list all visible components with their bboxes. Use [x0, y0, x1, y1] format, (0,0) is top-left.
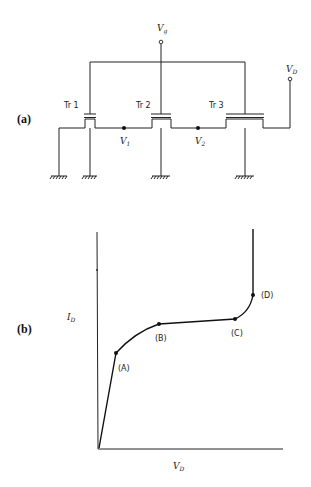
point-c-label: (C)	[231, 329, 243, 338]
tr1-label: Tr 1	[63, 101, 79, 110]
x-axis-label: VD	[173, 461, 185, 472]
ground-icon	[235, 176, 254, 179]
y-axis	[97, 232, 98, 449]
tr2-label: Tr 2	[135, 101, 151, 110]
panel-label-b: (b)	[17, 322, 32, 336]
panel-label-a: (a)	[17, 112, 31, 126]
vd-terminal	[288, 77, 292, 81]
vg-label: Vg	[157, 23, 168, 35]
iv-graph: (b) ID VD (A) (B) (C) (D)	[17, 229, 283, 472]
circuit-diagram: (a) Vg Tr 1 Tr 2 Tr 3	[17, 23, 298, 179]
point-b-label: (B)	[155, 334, 167, 343]
point-b	[157, 322, 161, 326]
point-a	[114, 351, 118, 355]
transistor-tr2	[124, 114, 198, 128]
node-v1-label: V1	[120, 136, 130, 147]
point-c	[233, 317, 237, 321]
point-d	[251, 293, 255, 297]
y-axis-tick	[96, 269, 98, 271]
vd-terminal-label: VD	[286, 64, 298, 75]
point-a-label: (A)	[118, 364, 130, 373]
ground-icon	[82, 176, 97, 179]
y-axis-label: ID	[66, 312, 76, 323]
ground-icon	[50, 176, 67, 179]
vg-terminal	[159, 40, 163, 44]
tr3-label: Tr 3	[208, 101, 224, 110]
node-v2	[196, 126, 200, 130]
node-v2-label: V2	[195, 136, 206, 147]
figure: (a) Vg Tr 1 Tr 2 Tr 3	[0, 0, 311, 487]
node-v1	[122, 126, 126, 130]
point-d-label: (D)	[261, 291, 273, 300]
ground-icon	[151, 176, 170, 179]
transistor-tr1	[59, 114, 124, 128]
iv-curve	[99, 229, 253, 448]
